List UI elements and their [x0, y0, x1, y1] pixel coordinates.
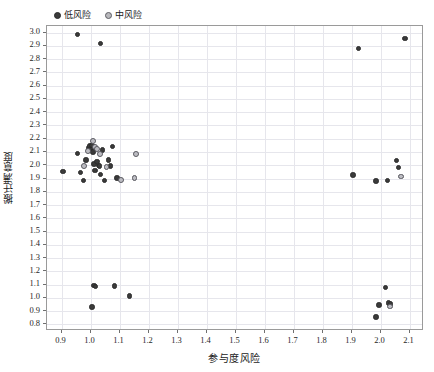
y-axis-tick	[43, 191, 46, 192]
y-axis-tick	[43, 323, 46, 324]
gridline-horizontal	[47, 245, 422, 246]
plot-area	[46, 25, 423, 330]
y-axis-tick	[43, 178, 46, 179]
gridline-horizontal	[47, 218, 422, 219]
x-axis-tick-label: 1.0	[75, 335, 105, 345]
data-point-low-risk	[385, 178, 390, 183]
x-axis-tick-label: 2.1	[394, 335, 424, 345]
y-axis-tick-label: 2.9	[16, 39, 40, 49]
gridline-horizontal	[47, 125, 422, 126]
y-axis-tick	[43, 45, 46, 46]
gridline-horizontal	[47, 46, 422, 47]
y-axis-tick-label: 1.5	[16, 225, 40, 235]
y-axis-tick-label: 3.0	[16, 26, 40, 36]
y-axis-tick-label: 2.7	[16, 66, 40, 76]
y-axis-tick-label: 1.2	[16, 265, 40, 275]
x-axis-tick	[322, 330, 323, 333]
x-axis-tick	[380, 330, 381, 333]
data-point-mid-risk	[118, 177, 124, 183]
y-axis-tick	[43, 217, 46, 218]
data-point-low-risk	[350, 172, 355, 177]
data-point-low-risk	[89, 304, 94, 309]
x-axis-tick	[293, 330, 294, 333]
y-axis-tick	[43, 85, 46, 86]
data-point-low-risk	[81, 178, 86, 183]
y-axis-tick-label: 1.9	[16, 172, 40, 182]
gridline-horizontal	[47, 59, 422, 60]
legend-item-low-risk[interactable]: 低风险	[54, 11, 91, 20]
x-axis-tick	[206, 330, 207, 333]
data-point-mid-risk	[387, 304, 393, 310]
gridline-horizontal	[47, 311, 422, 312]
data-point-low-risk	[97, 163, 102, 168]
y-axis-tick	[43, 164, 46, 165]
x-axis-tick-label: 1.6	[249, 335, 279, 345]
x-axis-tick-label: 1.4	[191, 335, 221, 345]
legend-label-mid-risk: 中风险	[115, 11, 142, 20]
data-point-low-risk	[110, 144, 115, 149]
y-axis-tick	[43, 257, 46, 258]
gridline-horizontal	[47, 205, 422, 206]
data-point-low-risk	[396, 165, 401, 170]
y-axis-tick	[43, 98, 46, 99]
x-axis-tick	[351, 330, 352, 333]
gridline-horizontal	[47, 271, 422, 272]
gridline-horizontal	[47, 232, 422, 233]
gridline-horizontal	[47, 139, 422, 140]
y-axis-tick	[43, 111, 46, 112]
data-point-low-risk	[127, 293, 132, 298]
x-axis-tick	[177, 330, 178, 333]
y-axis-tick	[43, 244, 46, 245]
x-axis-tick-label: 1.5	[220, 335, 250, 345]
data-point-mid-risk	[81, 163, 87, 169]
y-axis-tick-label: 1.7	[16, 199, 40, 209]
x-axis-title: 参与度风险	[46, 350, 423, 365]
y-axis-tick	[43, 231, 46, 232]
y-axis-tick-label: 0.8	[16, 318, 40, 328]
y-axis-title: 搬迁满意度	[1, 25, 15, 330]
chart-legend: 低风险 中风险	[46, 6, 423, 24]
data-point-low-risk	[112, 283, 117, 288]
legend-item-mid-risk[interactable]: 中风险	[105, 11, 142, 20]
data-point-mid-risk	[90, 138, 96, 144]
y-axis-tick-label: 1.4	[16, 238, 40, 248]
y-axis-tick	[43, 32, 46, 33]
y-axis-tick	[43, 151, 46, 152]
y-axis-title-wrap: 搬迁满意度	[0, 25, 16, 330]
x-axis-tick-label: 2.0	[365, 335, 395, 345]
data-point-low-risk	[75, 32, 80, 37]
legend-marker-mid-risk-icon	[105, 12, 112, 19]
x-axis-tick	[264, 330, 265, 333]
y-axis-tick-label: 2.8	[16, 53, 40, 63]
data-point-mid-risk	[132, 175, 138, 181]
y-axis-tick-label: 2.4	[16, 106, 40, 116]
y-axis-tick	[43, 284, 46, 285]
y-axis-tick-label: 2.3	[16, 119, 40, 129]
y-axis-tick-label: 2.5	[16, 92, 40, 102]
data-point-low-risk	[75, 151, 80, 156]
legend-marker-low-risk-icon	[54, 12, 61, 19]
data-point-mid-risk	[133, 151, 139, 157]
data-point-low-risk	[92, 168, 97, 173]
x-axis-tick-label: 0.9	[46, 335, 76, 345]
gridline-horizontal	[47, 258, 422, 259]
data-point-mid-risk	[97, 151, 103, 157]
data-point-mid-risk	[104, 164, 110, 170]
x-axis-tick-label: 1.2	[133, 335, 163, 345]
x-axis-tick-label: 1.3	[162, 335, 192, 345]
y-axis-tick-label: 1.8	[16, 185, 40, 195]
gridline-horizontal	[47, 86, 422, 87]
x-axis-tick	[148, 330, 149, 333]
data-point-low-risk	[93, 284, 98, 289]
y-axis-tick-label: 2.2	[16, 132, 40, 142]
data-point-low-risk	[373, 314, 378, 319]
x-axis-tick-label: 1.7	[278, 335, 308, 345]
y-axis-tick-label: 1.3	[16, 252, 40, 262]
y-axis-tick	[43, 270, 46, 271]
legend-label-low-risk: 低风险	[64, 11, 91, 20]
y-axis-tick	[43, 124, 46, 125]
y-axis-title-text: 搬迁满意度	[1, 151, 16, 204]
x-axis-tick	[119, 330, 120, 333]
data-point-mid-risk	[85, 148, 91, 154]
x-axis-tick-label: 1.8	[307, 335, 337, 345]
